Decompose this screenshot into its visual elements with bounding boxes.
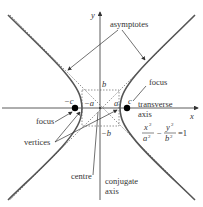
c-left-label: −c [64,96,74,106]
conjugate-axis-label-2: axis [105,186,119,196]
svg-text:2: 2 [170,134,173,139]
centre-point [99,107,101,109]
transverse-axis-label-2: axis [138,109,152,119]
asymptote-pointer-right [122,30,145,60]
svg-text:x: x [143,122,148,132]
x-axis-label: x [189,111,194,121]
svg-text:a: a [143,133,147,143]
svg-text:y: y [165,122,170,132]
b-bottom-label: −b [101,128,111,138]
c-right-label: c [128,96,132,106]
vertices-label: vertices [24,137,50,147]
svg-text:b: b [165,133,169,143]
a-right-label: a [114,98,118,108]
svg-text:2: 2 [171,122,174,127]
focus-right-label: focus [149,77,167,87]
svg-text:2: 2 [148,134,151,139]
a-left-label: −a [84,98,94,108]
asymptotes-label: asymptotes [110,19,148,29]
b-top-label: b [102,79,106,89]
focus-left-pointer [55,112,72,122]
centre-label: centre [71,171,92,181]
hyperbola-diagram: y x asymptotes focus focus vertices cent… [0,0,203,207]
svg-text:=1: =1 [178,128,187,138]
focus-left-label: focus [36,116,54,126]
conjugate-axis-label-1: conjugate [105,176,138,186]
svg-text:2: 2 [149,122,152,127]
transverse-axis-label-1: transverse [138,99,173,109]
y-axis-label: y [90,10,95,20]
hyperbola-equation: x 2 a 2 − y 2 b 2 =1 [142,122,187,143]
svg-text:−: − [157,128,162,138]
asymptote-pointer-left [68,30,118,70]
